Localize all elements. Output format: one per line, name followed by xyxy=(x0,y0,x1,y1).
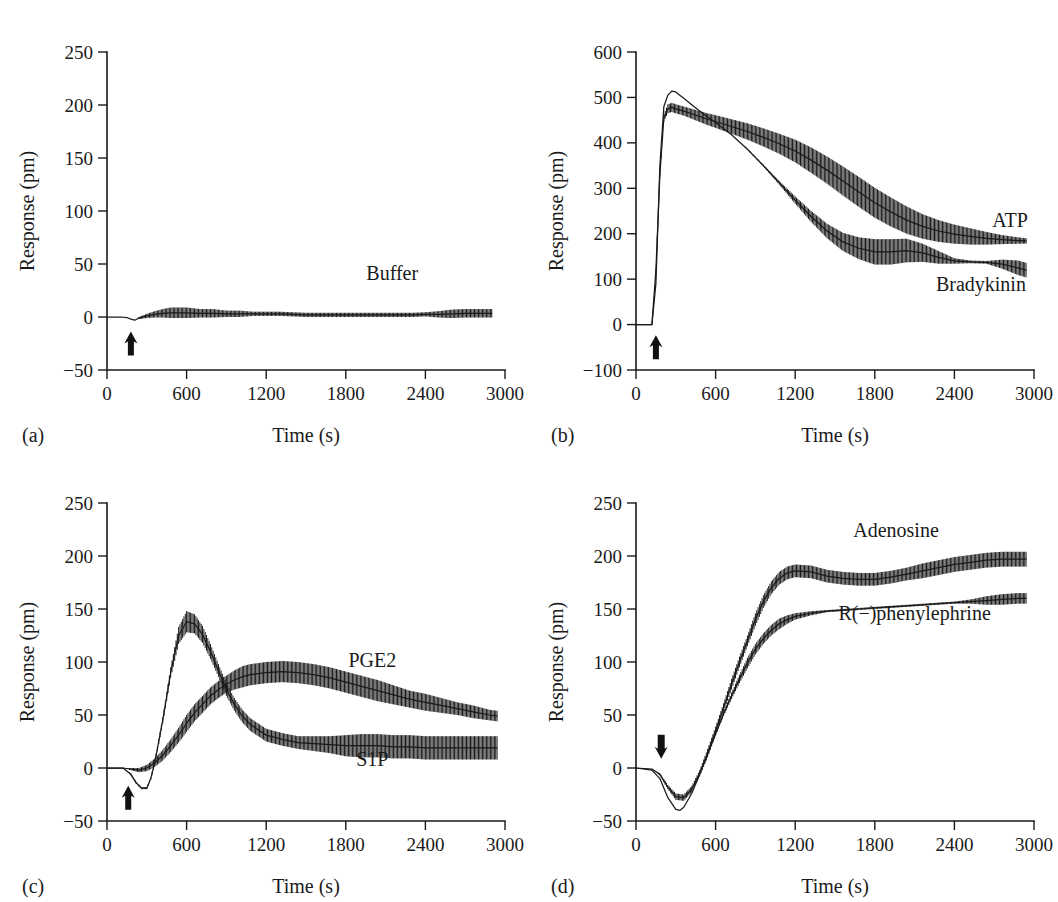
x-tick-label: 600 xyxy=(701,834,730,855)
y-tick-label: 150 xyxy=(594,599,623,620)
x-tick-label: 2400 xyxy=(935,383,973,404)
x-tick-label: 1800 xyxy=(856,834,894,855)
x-tick-label: 3000 xyxy=(1015,834,1053,855)
panel-b-plot: −100010020030040050060006001200180024003… xyxy=(545,42,1053,448)
y-tick-label: 50 xyxy=(603,705,622,726)
panel-letter: (d) xyxy=(551,875,574,898)
up-arrow-icon xyxy=(649,335,662,359)
y-tick-label: −50 xyxy=(592,811,622,832)
x-axis-title: Time (s) xyxy=(272,875,340,898)
y-tick-label: −50 xyxy=(63,811,93,832)
y-tick-label: 300 xyxy=(594,178,623,199)
x-tick-label: 2400 xyxy=(935,834,973,855)
x-tick-label: 1200 xyxy=(776,383,814,404)
x-tick-label: 600 xyxy=(172,834,201,855)
y-axis-title: Response (pm) xyxy=(545,151,568,272)
error-bars-adenosine xyxy=(659,552,1026,801)
y-tick-label: 0 xyxy=(613,314,623,335)
series-label: Adenosine xyxy=(853,519,939,541)
y-tick-label: 150 xyxy=(65,148,94,169)
y-tick-label: 50 xyxy=(74,705,93,726)
x-tick-label: 3000 xyxy=(1015,383,1053,404)
error-bars-bradykinin xyxy=(743,145,1026,277)
panel-letter: (a) xyxy=(22,424,44,447)
panel-b-svg: −100010020030040050060006001200180024003… xyxy=(529,0,1058,451)
x-tick-label: 0 xyxy=(631,834,641,855)
y-tick-label: 150 xyxy=(65,599,94,620)
y-axis-title: Response (pm) xyxy=(16,602,39,723)
up-arrow-icon xyxy=(122,786,135,810)
y-tick-label: 400 xyxy=(594,132,623,153)
x-tick-label: 0 xyxy=(102,834,112,855)
y-tick-label: 200 xyxy=(594,546,623,567)
x-tick-label: 3000 xyxy=(486,834,524,855)
y-tick-label: 100 xyxy=(594,652,623,673)
y-tick-label: 250 xyxy=(594,493,623,514)
y-tick-label: −100 xyxy=(583,360,622,381)
x-tick-label: 600 xyxy=(701,383,730,404)
x-axis-title: Time (s) xyxy=(272,424,340,447)
axis-lines xyxy=(636,503,1034,821)
up-arrow-icon xyxy=(124,332,137,356)
chart-panel-b: −100010020030040050060006001200180024003… xyxy=(529,0,1058,451)
error-bars-pge2 xyxy=(130,661,497,772)
series-label: Bradykinin xyxy=(936,273,1026,296)
axis-lines xyxy=(107,52,505,370)
chart-panel-a: −5005010015020025006001200180024003000Re… xyxy=(0,0,529,451)
y-tick-label: 100 xyxy=(65,201,94,222)
series-label: Buffer xyxy=(366,262,418,284)
x-axis-title: Time (s) xyxy=(801,875,869,898)
error-bars-s1p xyxy=(130,611,497,789)
x-tick-label: 0 xyxy=(102,383,112,404)
panel-letter: (b) xyxy=(551,424,574,447)
y-tick-label: 100 xyxy=(65,652,94,673)
x-tick-label: 1200 xyxy=(776,834,814,855)
y-tick-label: 0 xyxy=(84,758,94,779)
x-tick-label: 1800 xyxy=(856,383,894,404)
y-tick-label: −50 xyxy=(63,360,93,381)
x-axis-title: Time (s) xyxy=(801,424,869,447)
y-tick-label: 500 xyxy=(594,87,623,108)
x-tick-label: 1200 xyxy=(247,834,285,855)
series-label: ATP xyxy=(992,209,1028,231)
panel-letter: (c) xyxy=(22,875,44,898)
y-axis-title: Response (pm) xyxy=(545,602,568,723)
series-label: PGE2 xyxy=(348,649,396,671)
figure-root: −5005010015020025006001200180024003000Re… xyxy=(0,0,1058,902)
axis-lines xyxy=(107,503,505,821)
x-tick-label: 2400 xyxy=(406,383,444,404)
chart-panel-c: −5005010015020025006001200180024003000Re… xyxy=(0,451,529,902)
panel-d-plot: −5005010015020025006001200180024003000Re… xyxy=(545,493,1053,899)
curve-r-phenylephrine xyxy=(636,598,1026,810)
x-tick-label: 3000 xyxy=(486,383,524,404)
y-tick-label: 250 xyxy=(65,493,94,514)
y-tick-label: 250 xyxy=(65,42,94,63)
y-tick-label: 50 xyxy=(74,254,93,275)
chart-panel-d: −5005010015020025006001200180024003000Re… xyxy=(529,451,1058,902)
curve-adenosine xyxy=(636,559,1026,798)
panel-a-plot: −5005010015020025006001200180024003000Re… xyxy=(16,42,524,448)
panel-c-plot: −5005010015020025006001200180024003000Re… xyxy=(16,493,524,899)
y-axis-title: Response (pm) xyxy=(16,151,39,272)
y-tick-label: 0 xyxy=(613,758,623,779)
y-tick-label: 100 xyxy=(594,269,623,290)
axis-lines xyxy=(636,52,1034,370)
series-label: R(−)phenylephrine xyxy=(838,602,990,625)
series-label: S1P xyxy=(356,748,388,770)
y-tick-label: 0 xyxy=(84,307,94,328)
x-tick-label: 1200 xyxy=(247,383,285,404)
panel-c-svg: −5005010015020025006001200180024003000Re… xyxy=(0,451,529,902)
panel-a-svg: −5005010015020025006001200180024003000Re… xyxy=(0,0,529,451)
x-tick-label: 600 xyxy=(172,383,201,404)
y-tick-label: 200 xyxy=(65,95,94,116)
down-arrow-icon xyxy=(655,735,668,759)
x-tick-label: 0 xyxy=(631,383,641,404)
x-tick-label: 1800 xyxy=(327,383,365,404)
y-tick-label: 600 xyxy=(594,42,623,63)
panel-d-svg: −5005010015020025006001200180024003000Re… xyxy=(529,451,1058,902)
y-tick-label: 200 xyxy=(65,546,94,567)
x-tick-label: 1800 xyxy=(327,834,365,855)
y-tick-label: 200 xyxy=(594,223,623,244)
x-tick-label: 2400 xyxy=(406,834,444,855)
